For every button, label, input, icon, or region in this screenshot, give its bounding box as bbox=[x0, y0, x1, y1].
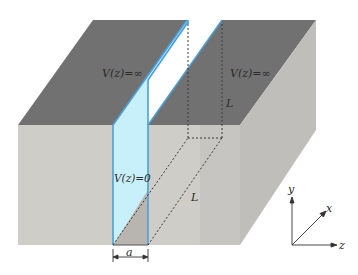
label-width: a bbox=[126, 246, 133, 259]
label-top-left-potential: V(z)=∞ bbox=[102, 67, 143, 80]
axis-label-y: y bbox=[287, 183, 295, 196]
front-face-shade bbox=[200, 125, 240, 245]
axis-label-x: x bbox=[326, 202, 333, 215]
y-axis-arrow-icon bbox=[290, 197, 294, 203]
z-axis-arrow-icon bbox=[331, 243, 337, 247]
label-length-vertical: L bbox=[225, 97, 233, 110]
label-channel-potential: V(z)=0 bbox=[114, 172, 151, 184]
label-top-right-potential: V(z)=∞ bbox=[230, 67, 271, 80]
potential-well-diagram: V(z)=∞ V(z)=∞ V(z)=0 L L a y x z bbox=[0, 0, 358, 275]
axis-label-z: z bbox=[338, 239, 345, 252]
label-length-depth: L bbox=[190, 191, 198, 204]
